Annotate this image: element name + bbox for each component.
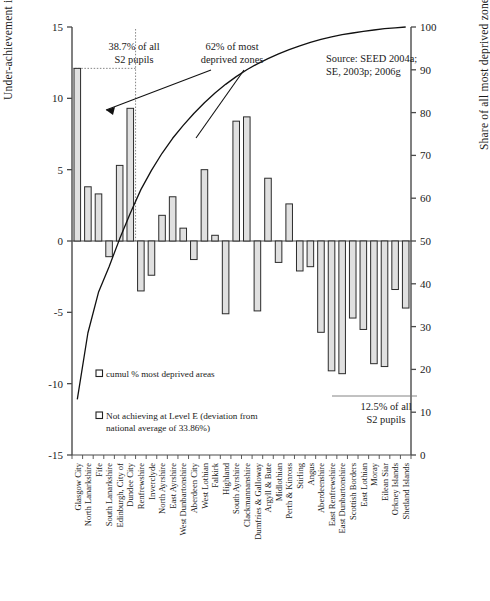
right-axis-tick-label: 70	[420, 149, 432, 161]
right-axis-tick-label: 20	[420, 363, 432, 375]
legend-label-cumulative: cumul % most deprived areas	[106, 369, 215, 379]
right-axis-tick-label: 60	[420, 192, 432, 204]
left-axis-tick-label: -5	[54, 306, 64, 318]
bar	[116, 165, 123, 241]
category-label: Stirling	[295, 462, 305, 488]
category-label: Eilean Siar	[380, 463, 390, 501]
source-line2: SE, 2003p; 2006g	[326, 66, 401, 77]
bar	[169, 197, 176, 241]
category-label: Perth & Kinross	[284, 462, 294, 519]
bars-group	[74, 68, 409, 373]
category-label: North Lanarkshire	[83, 463, 93, 526]
category-label: Scottish Borders	[348, 462, 358, 520]
bar	[339, 241, 346, 374]
category-label: Fife	[94, 463, 104, 477]
right-axis-tick-label: 50	[420, 235, 432, 247]
category-labels-group: Glasgow CityNorth LanarkshireFifeSouth L…	[73, 462, 411, 540]
legend-label-bars-line2: national average of 33.86%)	[106, 423, 210, 433]
bar	[371, 241, 378, 364]
category-label: Highland	[221, 462, 231, 495]
category-label: Moray	[369, 462, 379, 486]
bar	[275, 241, 282, 262]
bar	[180, 228, 187, 241]
category-label: East Renfrewshire	[327, 463, 337, 526]
bar	[74, 68, 81, 241]
annotation-curve-line2: deprived zones	[201, 54, 264, 65]
bar	[148, 241, 155, 275]
bar	[191, 241, 198, 260]
bar	[159, 215, 166, 241]
annotation-right-line1: 12.5% of all	[360, 401, 411, 412]
bar	[360, 241, 367, 329]
right-axis-tick-label: 30	[420, 321, 432, 333]
source-line1: Source: SEED 2004a;	[326, 53, 417, 64]
category-label: Clackmannanshire	[242, 463, 252, 527]
annotation-left-line2: S2 pupils	[115, 54, 154, 65]
annotation-curve-line1: 62% of most	[205, 41, 258, 52]
category-label: Orkney Islands	[390, 462, 400, 515]
left-axis-tick-label: 15	[52, 21, 64, 33]
right-axis-tick-label: 0	[420, 449, 426, 461]
left-axis-tick-label: -10	[48, 378, 63, 390]
category-label: Midlothian	[274, 462, 284, 501]
category-label: Angus	[306, 462, 316, 485]
annotations-group: 38.7% of allS2 pupils62% of mostdeprived…	[106, 41, 417, 425]
bar	[95, 194, 102, 241]
right-axis-tick-label: 10	[420, 406, 432, 418]
bar	[127, 108, 134, 241]
left-axis-title: Under-achievement in English (%)	[2, 0, 14, 100]
left-axis-tick-label: 5	[58, 164, 64, 176]
annotation-right-line2: S2 pupils	[367, 414, 406, 425]
bar	[286, 204, 293, 241]
category-label: Renfrewshire	[136, 463, 146, 509]
bar	[106, 241, 113, 257]
legend-marker-bars	[96, 412, 103, 419]
legend-label-bars-line1: Not achieving at Level E (deviation from	[106, 411, 258, 421]
category-label: Dundee City	[125, 462, 135, 506]
left-axis-tick-label: 10	[52, 92, 64, 104]
category-label: Argyll & Bute	[263, 463, 273, 513]
legend-marker-cumulative	[96, 370, 103, 377]
category-label: North Ayrshire	[157, 463, 167, 514]
bar	[212, 235, 219, 241]
category-label: South Ayrshire	[231, 463, 241, 514]
category-label: East Lothian	[359, 462, 369, 506]
bar	[233, 121, 240, 241]
bar	[244, 117, 251, 241]
bar	[349, 241, 356, 318]
bar	[328, 241, 335, 371]
right-axis-title: Share of all most deprived zones (%)	[478, 0, 490, 150]
category-label: Aberdeenshire	[316, 463, 326, 513]
right-axis-tick-label: 80	[420, 107, 432, 119]
left-axis-tick-label: -15	[48, 449, 63, 461]
bar	[318, 241, 325, 332]
right-axis-tick-label: 100	[420, 21, 437, 33]
category-label: Glasgow City	[73, 462, 83, 510]
bar	[201, 170, 208, 241]
category-label: Inverclyde	[147, 463, 157, 500]
category-label: Aberdeen City	[189, 462, 199, 513]
category-label: East Dunbartonshire	[337, 463, 347, 534]
bar	[222, 241, 229, 314]
bar	[392, 241, 399, 290]
category-label: West Dunbartonshire	[178, 463, 188, 536]
bar	[296, 241, 303, 271]
category-label: Falkirk	[210, 462, 220, 488]
annotation-left-line1: 38.7% of all	[108, 41, 159, 52]
left-axis-tick-label: 0	[58, 235, 64, 247]
bar	[254, 241, 261, 311]
right-axis-tick-label: 40	[420, 278, 432, 290]
category-label: West Lothian	[200, 462, 210, 509]
category-label: Dumfries & Galloway	[253, 462, 263, 540]
category-label: Shetland Islands	[401, 462, 411, 519]
bar	[265, 178, 272, 241]
legend-group: cumul % most deprived areasNot achieving…	[96, 369, 258, 433]
bar	[402, 241, 409, 308]
bar	[381, 241, 388, 367]
bar	[307, 241, 314, 267]
category-label: South Lanarkshire	[104, 463, 114, 526]
right-axis-tick-label: 90	[420, 64, 432, 76]
category-label: Edinburgh, City of	[115, 463, 125, 528]
